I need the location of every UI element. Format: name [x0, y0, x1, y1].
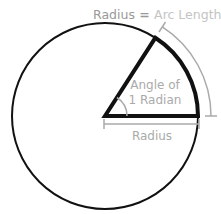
title-label: Radius = Arc Length [93, 7, 221, 22]
arc-length-tick-top [159, 22, 166, 32]
radian-diagram: Radius = Arc Length Angle of 1 Radian Ra… [0, 0, 221, 214]
radius-label: Radius [132, 129, 172, 143]
angle-label-line2: 1 Radian [129, 93, 182, 107]
angle-label-line1: Angle of [130, 78, 180, 92]
angle-arc [117, 98, 127, 117]
